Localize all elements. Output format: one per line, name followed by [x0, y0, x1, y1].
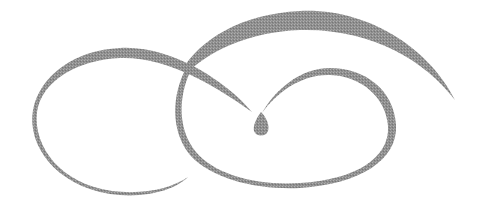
- teardrop-terminal: [254, 112, 269, 136]
- right-loop-stroke: [175, 68, 396, 188]
- flourish-ornament-icon: [0, 0, 487, 210]
- flourish-canvas: [0, 0, 487, 210]
- flourish-strokes: [32, 11, 455, 196]
